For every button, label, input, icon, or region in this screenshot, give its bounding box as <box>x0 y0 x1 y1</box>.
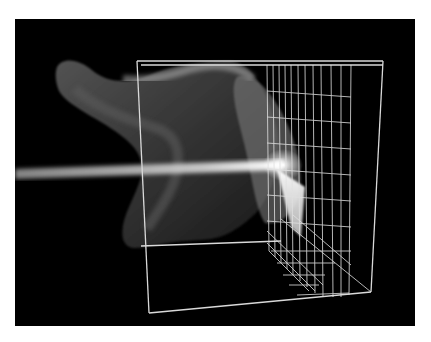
render-panel <box>15 19 415 326</box>
beam-impact-glow <box>263 149 303 181</box>
figure-caption <box>0 328 431 342</box>
scene-render <box>15 19 415 326</box>
